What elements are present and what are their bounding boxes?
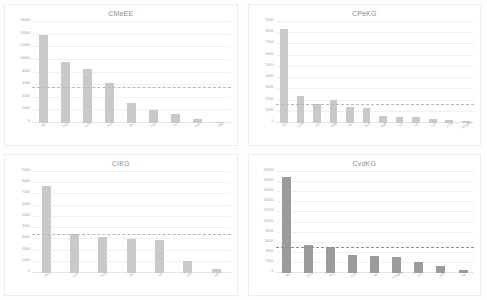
x-label-slot: sct	[391, 123, 408, 141]
y-axis-tick-label: 16000	[264, 189, 274, 193]
x-axis-labels: dissymdrubdgitebodagesctsitscis.hesurger…	[276, 123, 475, 141]
y-axis-tick-label: 7000	[22, 192, 30, 196]
bar-slot	[164, 22, 186, 123]
x-axis-tick-label: dep	[217, 123, 224, 129]
chart-title: CIKG	[5, 160, 237, 167]
x-label-slot: age	[375, 123, 392, 141]
y-axis-tick-label: 4000	[266, 250, 274, 254]
x-axis-tick-label: dis	[285, 273, 291, 278]
x-axis-tick-label: bdg	[331, 123, 338, 129]
y-axis-tick-label: 0	[272, 120, 274, 124]
x-axis-tick-label: sci	[431, 123, 437, 128]
bar-slot	[209, 22, 231, 123]
bar-slot	[89, 172, 117, 273]
y-axis-tick-label: 16000	[20, 19, 30, 23]
x-axis-tick-label: bod	[364, 123, 371, 129]
bar-slot	[309, 22, 326, 123]
plot-area: 0100020003000400050006000700080009000	[32, 172, 231, 273]
y-axis-tick-label: 2000	[22, 108, 30, 112]
bar-slot	[98, 22, 120, 123]
x-axis-labels: disbodsymprodrumiciteequdep	[32, 123, 231, 141]
x-label-slot: equ	[186, 123, 208, 141]
x-axis-tick-label: s.he	[446, 122, 454, 129]
x-label-slot: tre	[145, 273, 173, 291]
bar-slot	[364, 172, 386, 273]
bar	[42, 186, 51, 273]
bar-slot	[441, 22, 458, 123]
bar-slot	[276, 172, 298, 273]
x-axis-tick-label: dis	[44, 273, 50, 278]
x-label-slot: dis	[276, 123, 293, 141]
average-dashed-line	[32, 87, 231, 88]
y-axis-tick-label: 18000	[264, 179, 274, 183]
x-label-slot: pro	[98, 123, 120, 141]
x-axis-tick-label: surgery	[461, 121, 473, 130]
chart-title: CMeEE	[5, 10, 237, 17]
bar	[183, 261, 192, 273]
y-axis-tick-label: 4000	[22, 225, 30, 229]
y-axis-tick-label: 14000	[20, 32, 30, 36]
average-dashed-line	[276, 247, 475, 248]
x-label-slot: dru	[309, 123, 326, 141]
average-dashed-line	[32, 234, 231, 235]
x-axis-tick-label: bod	[62, 123, 69, 129]
bar	[155, 240, 164, 273]
figure-bar-chart-grid: CMeEE02000400060008000100001200014000160…	[0, 0, 487, 300]
bar-slot	[342, 22, 359, 123]
x-axis-tick-label: med	[306, 272, 314, 279]
y-axis-tick-label: 2000	[266, 98, 274, 102]
bar	[313, 104, 321, 123]
y-axis-tick-label: 9000	[266, 19, 274, 23]
x-axis-tick-label: sit	[415, 123, 420, 128]
x-label-slot: dep	[209, 123, 231, 141]
x-label-slot: surgery	[458, 123, 475, 141]
x-axis-tick-label: sym	[350, 272, 358, 278]
bar-slot	[424, 22, 441, 123]
x-label-slot: med	[298, 273, 320, 291]
bar-series	[32, 22, 231, 123]
bar-slot	[320, 172, 342, 273]
bar	[370, 256, 379, 273]
x-axis-tick-label: tre	[417, 273, 422, 278]
x-label-slot: use	[174, 273, 202, 291]
y-axis-tick-label: 2000	[266, 260, 274, 264]
x-label-slot: sci	[424, 123, 441, 141]
y-axis-tick-label: 1000	[266, 109, 274, 113]
x-axis-tick-label: sym	[297, 122, 305, 128]
x-axis-tick-label: sct	[398, 123, 404, 128]
bar-slot	[375, 22, 392, 123]
bar-series	[32, 172, 231, 273]
x-label-slot: set	[202, 273, 230, 291]
y-axis-tick-label: 20000	[264, 169, 274, 173]
average-dashed-line	[276, 104, 475, 105]
bar	[70, 234, 79, 273]
x-label-slot: mic	[142, 123, 164, 141]
y-axis-tick-label: 0	[272, 270, 274, 274]
y-axis-tick-label: 9000	[22, 169, 30, 173]
bar-slot	[202, 172, 230, 273]
chart-plot-frame: CPeKG01000200030004000500060007000800090…	[248, 4, 482, 146]
y-axis-tick-label: 6000	[266, 53, 274, 57]
y-axis-tick-label: 0	[28, 120, 30, 124]
x-axis-tick-label: surgery	[392, 271, 404, 280]
y-axis-tick-label: 3000	[22, 237, 30, 241]
x-label-slot: bdg	[325, 123, 342, 141]
x-label-slot: surgery	[386, 273, 408, 291]
y-axis-tick-label: 10000	[20, 57, 30, 61]
bar-slot	[325, 22, 342, 123]
bar-slot	[408, 22, 425, 123]
bar	[127, 103, 136, 123]
x-label-slot: ite	[164, 123, 186, 141]
x-label-slot: tre	[408, 273, 430, 291]
x-axis-tick-label: pro	[107, 123, 113, 129]
x-label-slot: dru	[120, 123, 142, 141]
bar-slot	[276, 22, 293, 123]
bar-slot	[145, 172, 173, 273]
chart-plot-frame: CMeEE02000400060008000100001200014000160…	[4, 4, 238, 146]
x-label-slot: bod	[358, 123, 375, 141]
y-axis-tick-label: 6000	[22, 82, 30, 86]
bar	[149, 110, 158, 123]
x-axis-tick-label: ite	[348, 123, 353, 128]
bar	[304, 245, 313, 273]
chart-title: CPeKG	[249, 10, 481, 17]
